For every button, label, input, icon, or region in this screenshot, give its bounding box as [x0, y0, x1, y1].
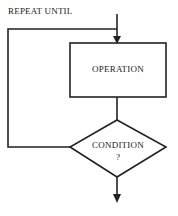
exit-arrow-icon	[113, 194, 121, 203]
operation-label: OPERATION	[70, 64, 166, 74]
condition-label: CONDITION	[70, 140, 166, 150]
flowchart-lines	[0, 0, 178, 216]
condition-mark: ?	[70, 152, 166, 162]
title-label: REPEAT UNTIL	[8, 6, 72, 16]
